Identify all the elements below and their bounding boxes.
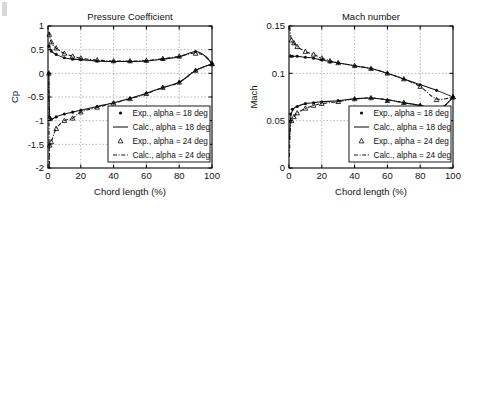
x-tick-label: 20 xyxy=(317,170,328,181)
legend-item-label: Calc., alpha = 24 deg xyxy=(374,151,452,160)
chart-title: Mach number xyxy=(342,11,400,22)
x-tick-label: 80 xyxy=(415,170,426,181)
chart-lift-drag xyxy=(0,204,241,408)
x-tick-label: 100 xyxy=(445,170,461,181)
y-axis-label: Cp xyxy=(9,91,20,103)
legend[interactable]: Exp., alpha = 18 degCalc., alpha = 18 de… xyxy=(349,106,452,162)
y-tick-label: 0 xyxy=(39,68,44,79)
legend-dot-sample xyxy=(360,111,363,114)
x-tick-label: 100 xyxy=(204,170,220,181)
y-tick-label: 0 xyxy=(280,162,285,173)
y-tick-label: 0.15 xyxy=(267,20,286,31)
legend-item-label: Calc., alpha = 18 deg xyxy=(374,123,452,132)
legend[interactable]: Exp., alpha = 18 degCalc., alpha = 18 de… xyxy=(108,106,211,162)
y-tick-label: 0.1 xyxy=(272,68,285,79)
x-axis-label: Chord length (%) xyxy=(335,186,407,197)
legend-item-label: Exp., alpha = 24 deg xyxy=(374,137,450,146)
chart-mach-number: 02040608010000.050.10.15Mach numberChord… xyxy=(241,0,482,204)
x-tick-label: 60 xyxy=(141,170,152,181)
data-curve xyxy=(290,27,453,99)
x-tick-label: 40 xyxy=(108,170,119,181)
y-tick-label: 0.05 xyxy=(267,115,286,126)
y-tick-label: -2 xyxy=(36,162,44,173)
y-tick-label: -1.5 xyxy=(28,139,44,150)
figure-page: 020406080100-2-1.5-1-0.500.51Pressure Co… xyxy=(0,0,482,408)
legend-item-label: Calc., alpha = 24 deg xyxy=(133,151,211,160)
chart-title: Pressure Coefficient xyxy=(87,11,173,22)
x-tick-label: 0 xyxy=(45,170,50,181)
data-curve xyxy=(290,54,453,97)
panel-mach-number: 02040608010000.050.10.15Mach numberChord… xyxy=(241,0,482,204)
x-tick-label: 20 xyxy=(76,170,87,181)
x-tick-label: 80 xyxy=(174,170,185,181)
panel-pressure-coefficient: 020406080100-2-1.5-1-0.500.51Pressure Co… xyxy=(0,0,241,204)
legend-item-label: Exp., alpha = 24 deg xyxy=(133,137,209,146)
legend-dot-sample xyxy=(119,111,122,114)
y-tick-label: -1 xyxy=(36,115,44,126)
data-point xyxy=(54,126,59,130)
panel-pressure-ratio xyxy=(241,204,482,408)
x-tick-label: 60 xyxy=(382,170,393,181)
legend-item-label: Calc., alpha = 18 deg xyxy=(133,123,211,132)
x-tick-label: 0 xyxy=(286,170,291,181)
y-tick-label: -0.5 xyxy=(28,91,44,102)
legend-item-label: Exp., alpha = 18 deg xyxy=(133,109,209,118)
x-tick-label: 40 xyxy=(349,170,360,181)
legend-item-label: Exp., alpha = 18 deg xyxy=(374,109,450,118)
y-axis-label: Mach xyxy=(248,85,259,108)
y-tick-label: 0.5 xyxy=(31,44,44,55)
chart-pressure-coefficient: 020406080100-2-1.5-1-0.500.51Pressure Co… xyxy=(0,0,241,204)
chart-pressure-ratio xyxy=(241,204,482,408)
panel-lift-drag xyxy=(0,204,241,408)
x-axis-label: Chord length (%) xyxy=(94,186,166,197)
y-tick-label: 1 xyxy=(39,20,44,31)
